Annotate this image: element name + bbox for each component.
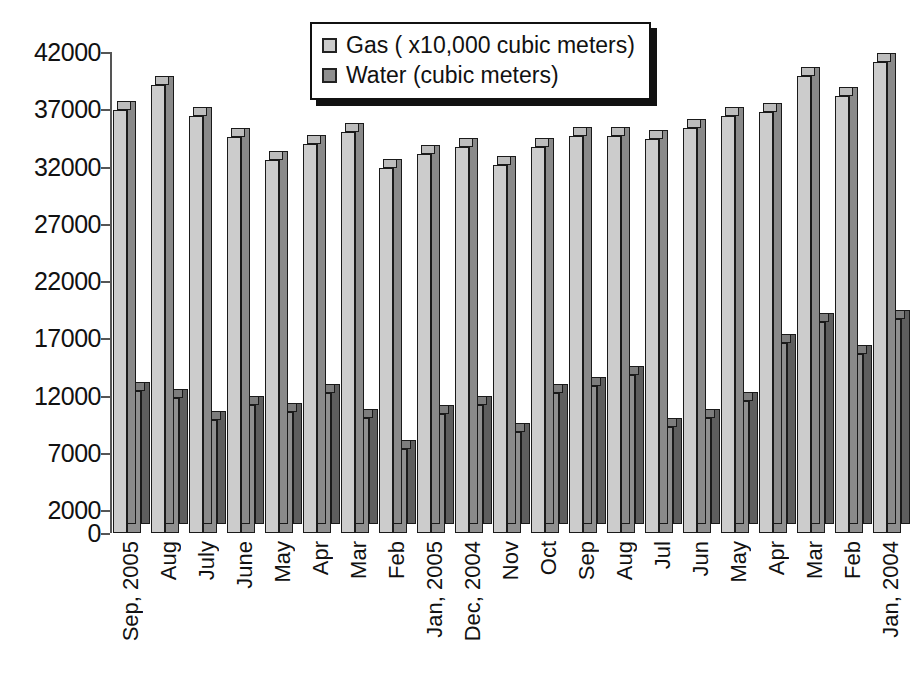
bar-top-face [383, 159, 397, 168]
x-axis-label: June [232, 541, 258, 589]
bar-side-face [293, 403, 302, 524]
bar-gas [683, 128, 697, 533]
x-axis-label: Apr [308, 541, 334, 575]
bar-front-face [569, 136, 583, 533]
y-axis-tick [101, 396, 110, 398]
bar-group [378, 30, 416, 533]
bar-top-face [155, 76, 169, 85]
bar-front-face [531, 147, 545, 533]
bar-top-face [535, 138, 549, 147]
x-axis-label: Jan, 2005 [422, 541, 448, 638]
bar-side-face [317, 135, 326, 524]
bar-side-face [787, 334, 796, 524]
bar-side-face [165, 76, 174, 524]
bar-gas [151, 85, 165, 533]
bar-side-face [673, 418, 682, 525]
bar-side-face [825, 313, 834, 524]
bar-group [150, 30, 188, 533]
bar-side-face [331, 384, 340, 524]
bar-front-face [683, 128, 697, 533]
x-axis-label: Oct [536, 541, 562, 575]
bar-front-face [607, 136, 621, 533]
y-axis-tick [101, 533, 110, 535]
bar-gas [493, 165, 507, 533]
bar-side-face [545, 138, 554, 524]
bar-front-face [797, 76, 811, 533]
bar-top-face [573, 127, 587, 136]
bar-side-face [659, 130, 668, 524]
bar-front-face [721, 116, 735, 533]
bar-gas [759, 112, 773, 533]
bar-group [340, 30, 378, 533]
bar-top-face [345, 123, 359, 132]
x-axis-label: Jan, 2004 [878, 541, 904, 638]
y-axis-tick [101, 167, 110, 169]
bar-front-face [417, 154, 431, 533]
bar-side-face [849, 87, 858, 524]
bar-side-face [431, 145, 440, 524]
bar-gas [113, 110, 127, 533]
x-axis-label: Feb [840, 541, 866, 579]
bar-group [492, 30, 530, 533]
bar-side-face [445, 405, 454, 524]
bar-front-face [493, 165, 507, 533]
bar-side-face [407, 440, 416, 524]
bar-front-face [835, 96, 849, 533]
y-axis-tick [101, 224, 110, 226]
legend-swatch-gas [322, 38, 337, 53]
bar-group [188, 30, 226, 533]
bar-group [720, 30, 758, 533]
bar-side-face [483, 396, 492, 524]
bar-group [796, 30, 834, 533]
bar-top-face [421, 145, 435, 154]
bar-front-face [303, 144, 317, 533]
bar-gas [531, 147, 545, 533]
bar-side-face [583, 127, 592, 524]
bar-front-face [265, 160, 279, 533]
y-axis-tick-label: 12000 [34, 381, 101, 410]
bar-top-face [193, 107, 207, 116]
bar-top-face [231, 128, 245, 137]
bar-gas [341, 132, 355, 533]
bar-top-face [763, 103, 777, 112]
bar-side-face [749, 392, 758, 524]
bar-gas [265, 160, 279, 533]
bar-side-face [635, 366, 644, 524]
bar-side-face [811, 67, 820, 524]
legend-label-gas: Gas ( x10,000 cubic meters) [346, 32, 635, 59]
bar-gas [873, 62, 887, 533]
bar-side-face [217, 411, 226, 524]
bar-gas [835, 96, 849, 533]
bar-side-face [863, 345, 872, 524]
x-axis-label: May [270, 541, 296, 583]
legend-item-gas: Gas ( x10,000 cubic meters) [322, 30, 635, 60]
y-axis-tick [101, 510, 110, 512]
plot-area [112, 30, 910, 533]
bar-side-face [141, 382, 150, 524]
y-axis-tick-label: 27000 [34, 209, 101, 238]
bar-top-face [611, 127, 625, 136]
chart-legend: Gas ( x10,000 cubic meters) Water (cubic… [310, 22, 651, 100]
bar-group [568, 30, 606, 533]
bar-side-face [887, 53, 896, 524]
bar-side-face [469, 138, 478, 524]
bar-gas [721, 116, 735, 533]
bar-side-face [369, 409, 378, 524]
bar-side-face [597, 377, 606, 524]
bar-group [416, 30, 454, 533]
legend-label-water: Water (cubic meters) [346, 62, 559, 89]
bar-group [112, 30, 150, 533]
bar-side-face [203, 107, 212, 524]
bar-front-face [645, 139, 659, 533]
bar-side-face [127, 101, 136, 524]
bar-top-face [459, 138, 473, 147]
y-axis-tick-label: 2000 [47, 496, 101, 525]
x-axis-label: May [726, 541, 752, 583]
x-axis-label: Mar [346, 541, 372, 579]
y-axis-tick-label: 32000 [34, 152, 101, 181]
bar-front-face [759, 112, 773, 533]
bar-gas [569, 136, 583, 533]
bar-side-face [773, 103, 782, 524]
legend-item-water: Water (cubic meters) [322, 60, 635, 90]
bar-top-face [725, 107, 739, 116]
